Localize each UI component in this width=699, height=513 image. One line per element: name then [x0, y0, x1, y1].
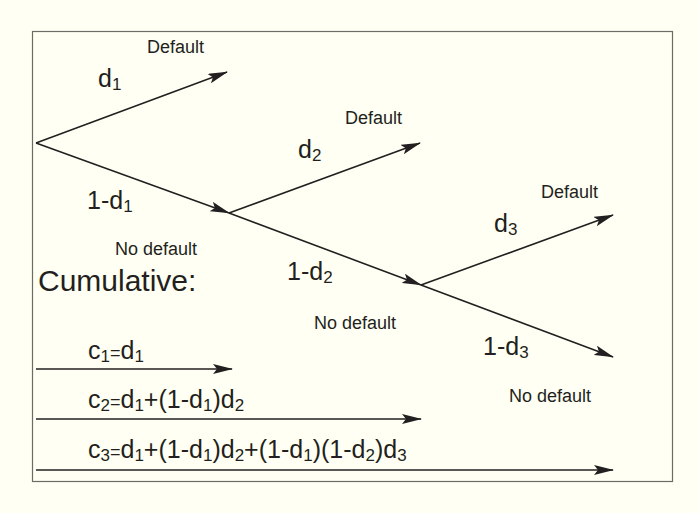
prob-label-d2: d2	[298, 137, 321, 162]
outcome-label-default-2: Default	[345, 109, 402, 127]
prob-label-1-minus-d3: 1-d3	[483, 334, 529, 359]
outcome-label-no-default-3: No default	[509, 387, 591, 405]
formula-c2: c2=d1+(1-d1)d2	[88, 387, 244, 412]
outcome-label-no-default-1: No default	[115, 240, 197, 258]
outcome-label-default-1: Default	[147, 38, 204, 56]
cumulative-heading: Cumulative:	[38, 266, 196, 296]
outcome-label-default-3: Default	[541, 183, 598, 201]
prob-label-d1: d1	[98, 66, 121, 91]
prob-label-1-minus-d2: 1-d2	[287, 259, 333, 284]
prob-label-d3: d3	[494, 211, 517, 236]
formula-c3: c3=d1+(1-d1)d2+(1-d1)(1-d2)d3	[88, 437, 407, 462]
probability-tree-diagram: Default d1 1-d1 No default Default d2 1-…	[0, 0, 699, 513]
outcome-label-no-default-2: No default	[314, 314, 396, 332]
formula-c1: c1=d1	[88, 338, 144, 363]
prob-label-1-minus-d1: 1-d1	[87, 188, 133, 213]
